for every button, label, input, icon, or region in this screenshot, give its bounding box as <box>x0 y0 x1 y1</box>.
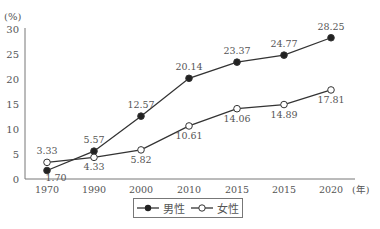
x-tick-label: 2000 <box>129 184 153 195</box>
data-label: 23.37 <box>223 45 250 56</box>
data-label: 28.25 <box>317 21 344 32</box>
legend-label-male: 男性 <box>163 200 185 216</box>
y-tick-label: 15 <box>6 99 19 110</box>
x-tick-label: 1990 <box>82 184 106 195</box>
legend-item-female: 女性 <box>191 200 239 216</box>
data-label: 24.77 <box>270 38 297 49</box>
filled-data-point <box>91 148 98 155</box>
x-tick-label: 2020 <box>319 184 343 195</box>
data-label: 3.33 <box>36 145 57 156</box>
data-label: 5.82 <box>130 154 151 165</box>
y-tick-label: 0 <box>13 174 19 185</box>
open-circle-marker-icon <box>191 204 213 212</box>
data-label: 20.14 <box>175 61 202 72</box>
y-tick-label: 10 <box>6 124 19 135</box>
open-data-point <box>91 154 98 161</box>
filled-data-point <box>234 59 241 66</box>
filled-data-point <box>186 75 193 82</box>
filled-data-point <box>281 52 288 59</box>
y-tick-label: 5 <box>13 149 19 160</box>
open-data-point <box>328 87 335 94</box>
open-data-point <box>186 123 193 130</box>
x-tick-label: 1970 <box>35 184 59 195</box>
series-line-male <box>47 38 331 171</box>
filled-data-point <box>328 34 335 41</box>
line-chart: 051015202530(%)1970199020002010201520152… <box>0 0 380 229</box>
filled-circle-marker-icon <box>137 204 159 212</box>
y-tick-label: 20 <box>6 74 19 85</box>
data-label: 1.70 <box>45 172 66 183</box>
legend-item-male: 男性 <box>137 200 185 216</box>
data-label: 10.61 <box>175 130 202 141</box>
open-data-point <box>234 105 241 112</box>
open-data-point <box>44 159 51 166</box>
y-tick-label: 30 <box>6 24 19 35</box>
data-label: 14.89 <box>270 109 297 120</box>
open-data-point <box>281 101 288 108</box>
filled-data-point <box>138 113 145 120</box>
data-label: 14.06 <box>223 113 250 124</box>
data-label: 17.81 <box>317 94 344 105</box>
x-tick-label: 2015 <box>225 184 249 195</box>
legend: 男性 女性 <box>133 198 243 218</box>
x-axis-unit: (年) <box>352 184 369 195</box>
axes: 051015202530(%)1970199020002010201520152… <box>4 11 369 195</box>
data-label: 12.57 <box>127 99 154 110</box>
y-axis-unit: (%) <box>4 11 21 22</box>
x-tick-label: 2010 <box>177 184 201 195</box>
legend-label-female: 女性 <box>217 200 239 216</box>
data-label: 4.33 <box>83 161 104 172</box>
y-tick-label: 25 <box>6 49 19 60</box>
x-tick-label: 2015 <box>272 184 296 195</box>
open-data-point <box>138 147 145 154</box>
data-label: 5.57 <box>83 134 104 145</box>
series-lines <box>44 34 335 173</box>
